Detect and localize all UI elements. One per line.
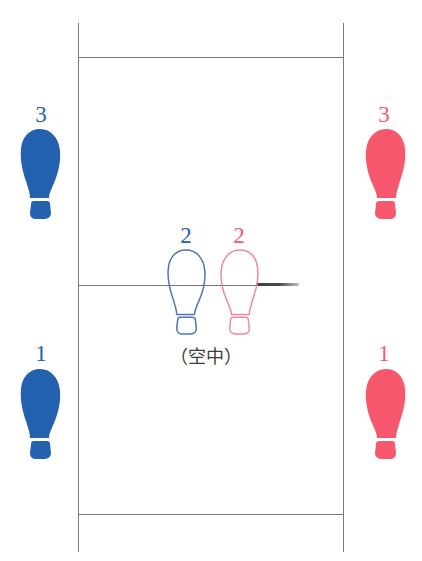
step-label-center-right-2: 2 (226, 224, 252, 247)
step-label-right-3: 3 (371, 103, 397, 126)
shoe-sole-icon (21, 369, 60, 459)
shoe-sole-outline-icon (168, 250, 205, 334)
shoe-sole-icon (21, 129, 60, 219)
court-bottom-horizontal-line (78, 514, 344, 515)
footprint-right-outer-step-3 (362, 128, 408, 220)
shoe-sole-icon (366, 129, 405, 219)
court-top-horizontal-line (78, 57, 344, 58)
direction-stub (256, 283, 299, 286)
court-right-vertical-line (343, 23, 344, 552)
step-label-center-left-2: 2 (173, 224, 199, 247)
shoe-sole-icon (366, 369, 405, 459)
footprint-center-right-step-2 (216, 249, 262, 335)
step-label-left-1: 1 (28, 342, 54, 365)
footprint-left-outer-step-1 (18, 368, 64, 460)
footwork-diagram-canvas: 3 3 2 2 (0, 0, 422, 561)
footprint-center-left-step-2 (164, 249, 210, 335)
in-the-air-caption: （空中） (170, 348, 242, 366)
footprint-right-outer-step-1 (362, 368, 408, 460)
footprint-left-outer-step-3 (18, 128, 64, 220)
step-label-left-3: 3 (28, 103, 54, 126)
step-label-right-1: 1 (371, 342, 397, 365)
court-left-vertical-line (78, 23, 79, 552)
shoe-sole-outline-icon (221, 250, 258, 334)
